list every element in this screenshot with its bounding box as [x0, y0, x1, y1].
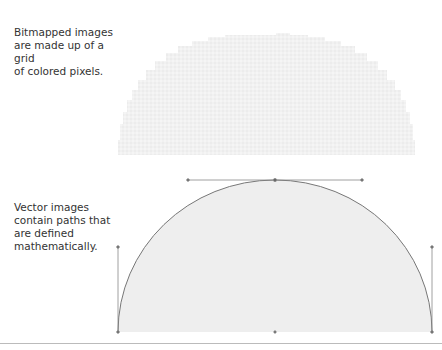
anchor-left-point [117, 331, 120, 334]
bottom-divider [0, 343, 442, 344]
handle-left-point [117, 246, 120, 249]
anchor-top-point [273, 178, 276, 181]
handle-top-right-point [361, 179, 364, 182]
center-point [274, 331, 276, 333]
handle-right-point [431, 246, 434, 249]
vector-semicircle [118, 180, 432, 332]
handle-top-left-point [187, 179, 190, 182]
illustration-canvas [0, 0, 442, 350]
bitmap-semicircle [118, 33, 415, 155]
anchor-right-point [431, 331, 434, 334]
